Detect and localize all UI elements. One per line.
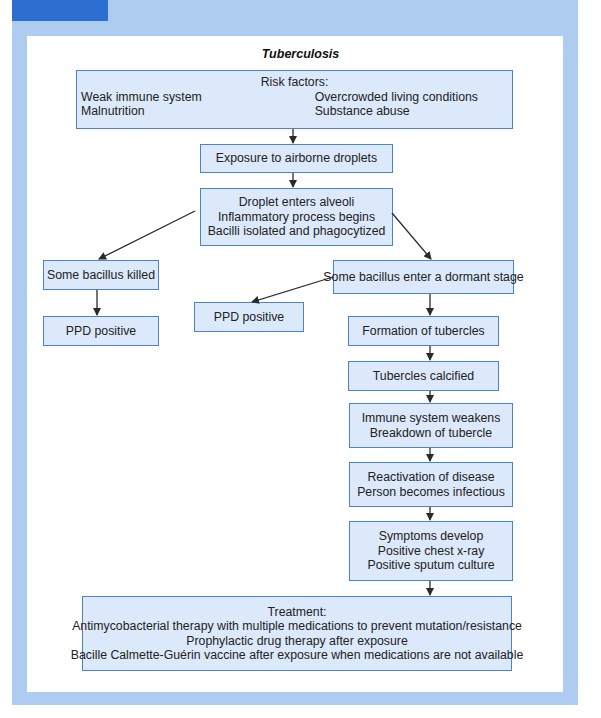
box-text: Tubercles calcified — [373, 369, 474, 384]
risk-factor-item: Weak immune system — [81, 90, 202, 105]
risk-factors-box: Risk factors: Weak immune system Malnutr… — [76, 70, 513, 129]
risk-factors-heading: Risk factors: — [77, 75, 512, 90]
box-text: PPD positive — [66, 324, 136, 339]
reactivation-box: Reactivation of disease Person becomes i… — [349, 462, 513, 507]
diagram-title: Tuberculosis — [0, 47, 601, 61]
risk-factor-item: Overcrowded living conditions — [315, 90, 478, 105]
box-text: Some bacillus killed — [47, 268, 155, 283]
box-text: PPD positive — [214, 310, 284, 325]
bacillus-killed-box: Some bacillus killed — [43, 260, 159, 290]
box-text: Some bacillus enter a dormant stage — [323, 270, 523, 285]
dormant-stage-box: Some bacillus enter a dormant stage — [333, 260, 514, 294]
immune-weakens-box: Immune system weakens Breakdown of tuber… — [349, 403, 513, 448]
box-text: Exposure to airborne droplets — [216, 151, 377, 166]
box-text: Droplet enters alveoli — [239, 195, 355, 210]
box-text: Breakdown of tubercle — [370, 426, 492, 441]
box-text: Antimycobacterial therapy with multiple … — [72, 619, 522, 634]
box-text: Inflammatory process begins — [218, 210, 375, 225]
header-tab — [12, 0, 108, 21]
symptoms-box: Symptoms develop Positive chest x-ray Po… — [349, 521, 513, 581]
tubercles-calcified-box: Tubercles calcified — [348, 361, 499, 391]
frame-top-band — [108, 0, 578, 21]
box-text: Treatment: — [268, 605, 327, 620]
box-text: Bacilli isolated and phagocytized — [208, 224, 386, 239]
box-text: Person becomes infectious — [357, 485, 505, 500]
box-text: Bacille Calmette-Guérin vaccine after ex… — [71, 648, 524, 663]
ppd-positive-mid-box: PPD positive — [194, 302, 304, 332]
box-text: Formation of tubercles — [362, 324, 484, 339]
box-text: Prophylactic drug therapy after exposure — [186, 634, 407, 649]
ppd-positive-left-box: PPD positive — [43, 316, 159, 346]
exposure-box: Exposure to airborne droplets — [200, 144, 393, 173]
box-text: Reactivation of disease — [367, 470, 494, 485]
treatment-box: Treatment: Antimycobacterial therapy wit… — [82, 596, 512, 671]
box-text: Positive chest x-ray — [378, 544, 485, 559]
box-text: Positive sputum culture — [367, 558, 494, 573]
risk-factor-item: Substance abuse — [315, 104, 478, 119]
box-text: Symptoms develop — [379, 529, 484, 544]
droplet-box: Droplet enters alveoli Inflammatory proc… — [200, 188, 393, 246]
box-text: Immune system weakens — [362, 411, 501, 426]
formation-tubercles-box: Formation of tubercles — [348, 316, 499, 346]
risk-factor-item: Malnutrition — [81, 104, 202, 119]
